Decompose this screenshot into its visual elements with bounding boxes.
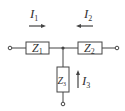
right-terminal-icon: [115, 46, 119, 50]
current-i3: I3: [76, 70, 90, 90]
impedance-z2: Z2: [78, 41, 102, 56]
i1-subscript: 1: [34, 14, 38, 23]
i2-subscript: 2: [88, 14, 92, 23]
current-i2: I2: [76, 6, 93, 28]
z3-subscript: 3: [63, 81, 66, 87]
i3-subscript: 3: [86, 81, 90, 90]
svg-text:I3: I3: [81, 73, 90, 90]
impedance-z3: Z3: [57, 67, 69, 92]
svg-text:I2: I2: [83, 6, 92, 23]
arrow-up-icon: [76, 70, 80, 75]
arrow-left-icon: [76, 24, 81, 28]
impedance-z1: Z1: [26, 41, 49, 56]
z1-subscript: 1: [39, 47, 43, 56]
t-network-diagram: I1 I2 Z1 Z2 Z3 I3: [0, 0, 125, 111]
left-terminal-icon: [8, 46, 12, 50]
arrow-right-icon: [41, 24, 46, 28]
svg-text:I1: I1: [29, 6, 38, 23]
z2-subscript: 2: [91, 47, 95, 56]
current-i1: I1: [29, 6, 46, 28]
bottom-terminal-icon: [61, 102, 65, 106]
